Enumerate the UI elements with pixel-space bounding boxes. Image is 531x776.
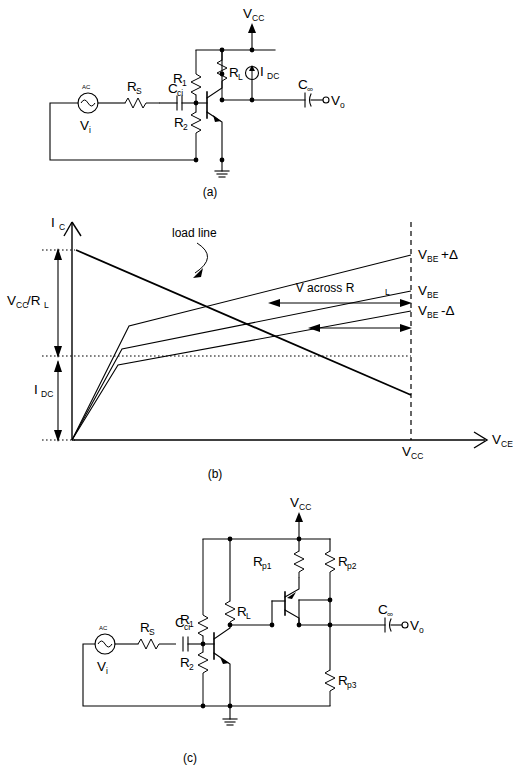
q1-collector-lead-c (214, 625, 230, 639)
v-across-rl-label-b: V across R (296, 281, 355, 295)
resistor-rp2-c (325, 551, 335, 600)
rl-sub-a: L (238, 72, 243, 82)
q2-collector-lead-c (285, 578, 299, 597)
vo-label-a: V (331, 93, 340, 108)
cci-sub-a: ci (177, 88, 183, 98)
r1-sub-c: 1 (189, 619, 194, 629)
rp3-sub-c: p3 (347, 680, 357, 690)
load-line-annotation-b: load line (172, 226, 217, 240)
vbe-plus-suffix-b: +Δ (441, 247, 458, 262)
vbe-plus-label-b: V (418, 247, 427, 262)
vccrl-label2-b: /R (27, 293, 41, 308)
resistor-r1-c (198, 539, 208, 636)
y-arrow-left-b (64, 222, 72, 236)
vo-sub-c: o (419, 625, 424, 635)
resistor-r1-a (191, 50, 201, 95)
rp1-sub-c: p1 (262, 561, 272, 571)
circuit-c: AC V i R S C ci R 1 R 2 (83, 495, 424, 765)
idc-label-a: I (260, 64, 264, 79)
resistor-rp3-c (325, 670, 335, 706)
vce-sub-b: CE (501, 439, 513, 449)
curve-vbe-plus-delta-b (72, 255, 411, 440)
graph-b: I C V CE V CC V CC /R L I DC load line (7, 215, 513, 481)
output-node-idc-a (250, 98, 255, 103)
idc-sub-a: DC (267, 71, 279, 81)
r2-sub-c: 2 (189, 662, 194, 672)
vo-sub-a: o (340, 100, 345, 110)
v-across-arrow-head-left-2-b (308, 324, 320, 332)
rp2-sub-c: p2 (347, 561, 357, 571)
vccrl-label-b: V (7, 293, 16, 308)
vbe-plus-sub-b: BE (427, 254, 439, 264)
ac-tag-c: AC (99, 625, 108, 631)
resistor-rs-c (138, 639, 176, 649)
vbe-minus-sub-b: BE (427, 310, 439, 320)
cout-sub-a: ∞ (307, 84, 313, 94)
vce-label-b: V (492, 432, 501, 447)
vi-label-a: V (80, 118, 89, 133)
q2-emitter-lead-c (285, 610, 299, 625)
output-terminal-a (323, 97, 329, 103)
ground-node-left-c (201, 704, 206, 709)
ac-tag-a: AC (82, 84, 91, 90)
technical-figure: AC V i R S C ci R 1 R 2 (0, 0, 531, 776)
rs-sub-c: S (149, 627, 155, 637)
vi-sub-c: i (106, 666, 108, 676)
vccrl-sub2-b: L (44, 300, 49, 310)
ic-label-b: I (51, 215, 55, 230)
vi-sub-a: i (89, 125, 91, 135)
vcc-label-a: V (243, 6, 252, 21)
curve-vbe-b (72, 291, 411, 440)
q1-emitter-arrow-c (220, 657, 229, 664)
vcc-sub-a: CC (252, 13, 264, 23)
vcc-mark-label-b: V (402, 444, 411, 459)
y-arrow-right-b (72, 222, 81, 236)
rs-sub-a: S (136, 86, 142, 96)
output-node-rl-a (220, 98, 225, 103)
v-across-arrow-head-right-2-b (400, 324, 412, 332)
v-across-rl-sub-b: L (385, 287, 390, 297)
idc-label-b: I (34, 382, 38, 397)
v-across-arrow-head-right-1-b (400, 299, 412, 307)
transistor-collector-lead-a (207, 74, 222, 98)
vbe-sub-b: BE (427, 290, 439, 300)
vi-label-c: V (97, 659, 106, 674)
ground-return-wire-a (50, 103, 196, 160)
caption-c: (c) (183, 751, 197, 765)
vcc-mark-sub-b: CC (411, 451, 423, 461)
rl-sub-c: L (246, 611, 251, 621)
transistor-emitter-arrow-a (213, 115, 221, 122)
vcc-sub-c: CC (299, 502, 311, 512)
idc-arrow-up-b (54, 360, 62, 372)
caption-b: (b) (208, 467, 223, 481)
top-rail-node-rl-c (228, 537, 233, 542)
resistor-r2-a (191, 112, 201, 160)
vcc-arrow-a (248, 23, 256, 33)
load-line-b (76, 250, 411, 395)
resistor-rl-c (225, 601, 235, 625)
cout-sub-c: ∞ (387, 609, 393, 619)
resistor-rp1-c (294, 551, 304, 578)
v-across-arrow-head-left-1-b (268, 299, 280, 307)
vcc-label-c: V (290, 495, 299, 510)
resistor-rs-a (125, 98, 160, 108)
vbe-minus-label-b: V (418, 303, 427, 318)
curve-vbe-minus-delta-b (72, 311, 411, 440)
vbe-label-b: V (418, 283, 427, 298)
r1-sub-a: 1 (182, 78, 187, 88)
vo-label-c: V (410, 618, 419, 633)
load-line-pointer-arrow-b (193, 268, 203, 278)
circuit-a: AC V i R S C ci R 1 R 2 (50, 6, 345, 199)
load-line-pointer-curve-b (195, 243, 208, 273)
vcc-arrow-c (295, 512, 303, 522)
ic-sub-b: C (59, 222, 65, 232)
resistor-r2-c (198, 652, 208, 706)
caption-a: (a) (203, 185, 218, 199)
r2-sub-a: 2 (183, 122, 188, 132)
idc-sub-b: DC (41, 389, 53, 399)
figure-root: AC V i R S C ci R 1 R 2 (0, 0, 531, 776)
vbe-minus-suffix-b: -Δ (441, 303, 455, 318)
output-terminal-c (402, 622, 408, 628)
ground-node-left-a (194, 158, 199, 163)
